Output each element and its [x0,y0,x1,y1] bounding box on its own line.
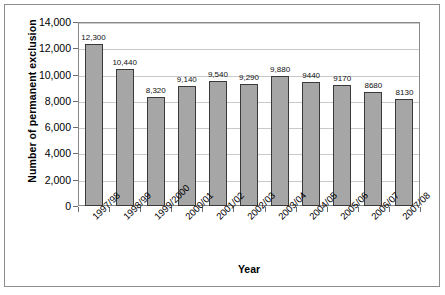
bar [85,44,103,206]
y-tick-label: 12,000 [11,42,71,54]
bar [395,99,413,206]
bar-value-label: 12,300 [81,33,105,42]
y-tick-label: 10,000 [11,69,71,81]
bar [364,92,382,206]
bar-value-label: 9,880 [270,65,290,74]
y-tick-label: 14,000 [11,16,71,28]
y-tick-label: 6,000 [11,121,71,133]
bar-value-label: 8130 [396,88,414,97]
bar [302,82,320,206]
bar-value-label: 9440 [302,71,320,80]
bar-value-label: 9,290 [239,73,259,82]
x-axis-title: Year [78,263,420,275]
y-tick-label: 2,000 [11,174,71,186]
x-tick-mark [78,207,79,212]
bar-value-label: 9,540 [208,70,228,79]
permanent-exclusions-bar-chart: Number of permanent exclusion 02,0004,00… [0,0,445,295]
bar [147,97,165,206]
bar [240,84,258,206]
bar-value-label: 9,140 [177,75,197,84]
y-tick-label: 8,000 [11,95,71,107]
bar [209,81,227,206]
bar [271,76,289,206]
bar-value-label: 9170 [333,74,351,83]
gridline [79,49,419,50]
bar [333,85,351,206]
bar-value-label: 8680 [364,81,382,90]
bar-value-label: 8,320 [146,86,166,95]
y-tick-label: 0 [11,200,71,212]
gridline [79,23,419,24]
y-tick-label: 4,000 [11,147,71,159]
bar-value-label: 10,440 [112,58,136,67]
bar [116,69,134,206]
